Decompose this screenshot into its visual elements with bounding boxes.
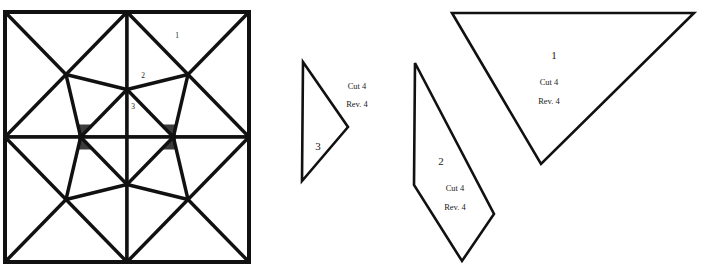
pattern-piece-3: 3 Cut 4 Rev. 4	[302, 62, 369, 181]
pattern-sheet-canvas: 1 2 3 3 Cut 4 Rev. 4 2 Cut 4 Rev. 4 1 Cu…	[0, 0, 705, 280]
quilt-quadrant-top-right	[127, 12, 249, 137]
quilt-label-2: 2	[141, 71, 145, 80]
piece-3-rev-label: Rev. 4	[346, 99, 368, 109]
piece-1-number: 1	[551, 49, 557, 61]
piece-3-number: 3	[315, 140, 321, 152]
quilt-quadrant-bottom-right	[127, 137, 249, 262]
pattern-piece-2: 2 Cut 4 Rev. 4	[414, 63, 494, 261]
quilt-block: 1 2 3	[5, 12, 249, 262]
piece-1-rev-label: Rev. 4	[538, 96, 560, 106]
quilt-label-1: 1	[175, 31, 179, 40]
piece-3-cut-label: Cut 4	[348, 81, 367, 91]
pattern-sheet: 1 2 3 3 Cut 4 Rev. 4 2 Cut 4 Rev. 4 1 Cu…	[0, 0, 705, 280]
piece-2-number: 2	[438, 155, 444, 167]
quilt-quadrant-bottom-left	[5, 137, 127, 262]
quilt-label-3: 3	[131, 102, 135, 111]
piece-3-outline	[302, 62, 348, 181]
piece-1-outline	[452, 13, 694, 164]
piece-2-rev-label: Rev. 4	[444, 202, 466, 212]
quilt-quadrant-top-left	[5, 12, 127, 137]
piece-1-cut-label: Cut 4	[540, 77, 559, 87]
piece-2-cut-label: Cut 4	[446, 183, 465, 193]
piece-2-outline	[414, 63, 494, 261]
pattern-piece-1: 1 Cut 4 Rev. 4	[452, 13, 694, 164]
